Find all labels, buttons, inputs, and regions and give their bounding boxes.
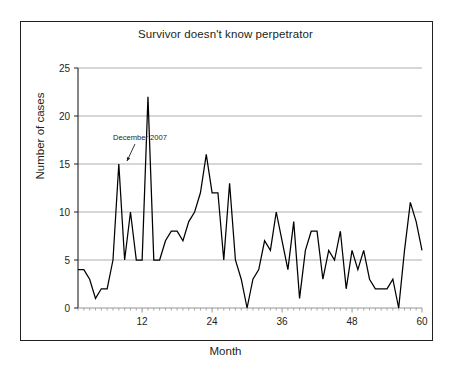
svg-text:10: 10 [59,207,71,218]
plot-area: 0510152025 1224364860 December 2007 [0,0,451,377]
svg-text:36: 36 [277,316,289,327]
annotation-december-2007: December 2007 [113,133,167,161]
svg-text:5: 5 [64,255,70,266]
svg-text:December 2007: December 2007 [113,133,167,142]
x-axis-minor-ticks [78,308,422,313]
axis-lines [78,68,422,308]
svg-text:15: 15 [59,159,71,170]
svg-text:60: 60 [416,316,428,327]
y-axis-tick-labels: 0510152025 [59,63,78,314]
gridlines [78,68,422,260]
data-series-line [78,97,422,308]
svg-text:25: 25 [59,63,71,74]
svg-text:12: 12 [137,316,149,327]
svg-text:24: 24 [207,316,219,327]
chart-figure: Survivor doesn't know perpetrator Number… [0,0,451,377]
svg-text:0: 0 [64,303,70,314]
x-axis-tick-labels: 1224364860 [137,316,428,327]
svg-text:20: 20 [59,111,71,122]
svg-text:48: 48 [346,316,358,327]
